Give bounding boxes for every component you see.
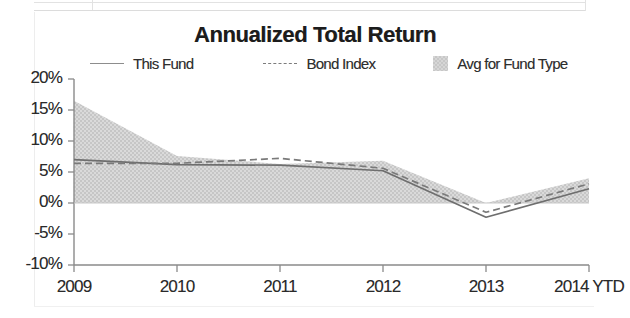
y-tick-label-15pct: 15% — [6, 99, 62, 119]
avg-for-fund-type-band — [74, 101, 589, 203]
x-tick-label-2012: 2012 — [338, 277, 428, 297]
x-tick-label-2013: 2013 — [441, 277, 531, 297]
document-rule-top-secondary — [34, 10, 585, 11]
y-tick-label-5pct: 5% — [6, 161, 62, 181]
annualized-total-return-chart: Annualized Total Return This Fund Bond I… — [0, 12, 630, 312]
x-tick-label-2010: 2010 — [132, 277, 222, 297]
y-tick-label-20pct: 20% — [6, 68, 62, 88]
y-tick-label-neg5pct: -5% — [6, 223, 62, 243]
plot-svg — [0, 12, 630, 312]
document-table-right-divider — [585, 0, 586, 11]
x-tick-label-2014-ytd: 2014 YTD — [544, 277, 630, 297]
x-tick-label-2009: 2009 — [29, 277, 119, 297]
y-tick-label-neg10pct: -10% — [6, 254, 62, 274]
y-tick-label-0pct: 0% — [6, 192, 62, 212]
x-tick-label-2011: 2011 — [235, 277, 325, 297]
document-rule-top — [34, 2, 585, 3]
y-tick-label-10pct: 10% — [6, 130, 62, 150]
document-table-cell-divider — [92, 0, 93, 10]
band-polygon — [74, 101, 589, 203]
plot-area: 20%15%10%5%0%-5%-10% 2009201020112012201… — [0, 12, 630, 312]
